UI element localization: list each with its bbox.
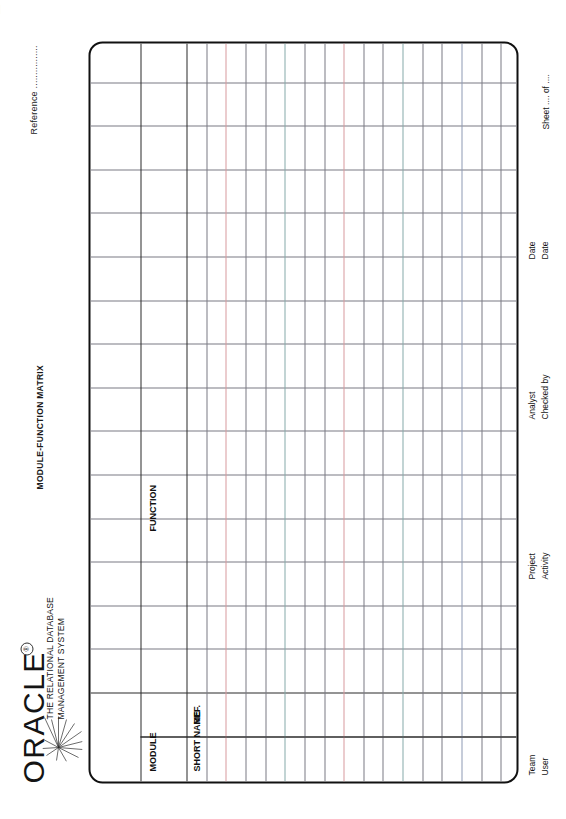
grid-hline [402, 43, 403, 781]
oracle-logo: ORACLE ® THE RELATIONAL DATABASE [18, 533, 82, 783]
grid-vline [90, 125, 516, 126]
project-field-label[interactable]: Project [526, 553, 537, 579]
grid-hline [265, 43, 266, 781]
date-field-label-2[interactable]: Date [539, 241, 550, 259]
grid-vline [90, 561, 516, 562]
grid-hline [481, 43, 482, 781]
grid-hline [186, 43, 187, 781]
oracle-starburst-icon [42, 715, 82, 761]
grid-hline [324, 43, 325, 781]
grid-vline [90, 343, 516, 344]
grid-vline [90, 605, 516, 606]
sheet-number-label[interactable]: Sheet .... of .... [540, 74, 551, 129]
page-title: MODULE-FUNCTION MATRIX [34, 365, 44, 489]
grid-vline [90, 169, 516, 170]
column-header-module: MODULE [147, 732, 157, 771]
grid-hline [500, 43, 501, 781]
reference-field-label[interactable]: Reference ................ [28, 45, 38, 134]
column-header-ref: REF. [191, 704, 201, 724]
grid-hline [225, 43, 226, 781]
date-field-label-1[interactable]: Date [526, 241, 537, 259]
grid-vline [90, 692, 516, 693]
matrix-grid[interactable] [90, 43, 516, 781]
column-header-function: FUNCTION [147, 485, 157, 532]
oracle-tagline-line2: MANAGEMENT SYSTEM [55, 597, 66, 719]
analyst-field-label[interactable]: Analyst [526, 391, 537, 419]
rotated-page-wrapper: MODULE-FUNCTION MATRIX Reference .......… [0, 0, 566, 819]
checked-by-field-label[interactable]: Checked by [539, 374, 550, 419]
grid-vline [90, 300, 516, 301]
oracle-tagline-line1: THE RELATIONAL DATABASE [44, 597, 55, 719]
grid-hline [441, 43, 442, 781]
grid-hline [363, 43, 364, 781]
grid-vline [90, 474, 516, 475]
user-field-label[interactable]: User [539, 757, 550, 775]
activity-field-label[interactable]: Activity [539, 552, 550, 579]
grid-hline [206, 43, 207, 781]
grid-vline [90, 212, 516, 213]
team-field-label[interactable]: Team [526, 754, 537, 775]
grid-hline [343, 43, 344, 781]
matrix-frame: MODULE SHORT NAME REF. FUNCTION [88, 41, 518, 783]
grid-vline [90, 430, 516, 431]
form-sheet: MODULE-FUNCTION MATRIX Reference .......… [0, 0, 566, 819]
grid-vline [90, 82, 516, 83]
grid-hline [245, 43, 246, 781]
grid-hline [140, 43, 141, 781]
grid-vline [90, 648, 516, 649]
grid-hline [382, 43, 383, 781]
grid-hline [304, 43, 305, 781]
grid-hline [422, 43, 423, 781]
grid-vline [90, 387, 516, 388]
registered-trademark-icon: ® [20, 642, 33, 655]
oracle-tagline: THE RELATIONAL DATABASE MANAGEMENT SYSTE… [44, 597, 66, 719]
grid-hline [461, 43, 462, 781]
grid-vline [90, 256, 516, 257]
grid-hline [284, 43, 285, 781]
